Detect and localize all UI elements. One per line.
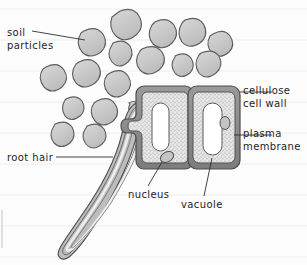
soil-particle — [40, 65, 66, 91]
diagram-page: soil particles root hair cellulose cell … — [0, 0, 307, 265]
soil-particle — [104, 71, 130, 97]
soil-particle — [83, 124, 106, 148]
soil-particle — [179, 18, 206, 46]
label-plasma-line2: membrane — [243, 140, 301, 153]
soil-particle — [149, 20, 176, 48]
label-nucleus: nucleus — [128, 189, 169, 201]
soil-particle — [51, 122, 74, 146]
soil-particle — [91, 99, 117, 125]
soil-particle — [78, 29, 105, 56]
soil-particle — [172, 54, 193, 77]
soil-particle — [137, 47, 165, 74]
label-nucleus-line1: nucleus — [128, 189, 169, 201]
label-plasma-membrane: plasma membrane — [243, 127, 301, 153]
label-soil-particles-line1: soil — [7, 26, 54, 39]
right-cell-nucleus — [220, 117, 230, 130]
left-cell-vacuole — [152, 103, 169, 151]
label-cellulose-cell-wall: cellulose cell wall — [243, 84, 290, 110]
label-soil-particles-line2: particles — [7, 39, 54, 52]
soil-particle — [63, 97, 85, 120]
label-root-hair-line1: root hair — [7, 152, 53, 164]
label-plasma-line1: plasma — [243, 127, 301, 140]
soil-particle — [109, 41, 132, 66]
label-cellulose-line1: cellulose — [243, 84, 290, 97]
label-vacuole: vacuole — [181, 199, 223, 211]
right-cell-vacuole — [203, 103, 222, 155]
label-cellulose-line2: cell wall — [243, 97, 290, 110]
label-soil-particles: soil particles — [7, 26, 54, 52]
label-root-hair: root hair — [7, 152, 53, 164]
soil-particle — [111, 9, 142, 39]
soil-particle — [73, 60, 101, 87]
soil-particle — [196, 51, 221, 77]
right-cell — [188, 86, 240, 169]
label-vacuole-line1: vacuole — [181, 199, 223, 211]
